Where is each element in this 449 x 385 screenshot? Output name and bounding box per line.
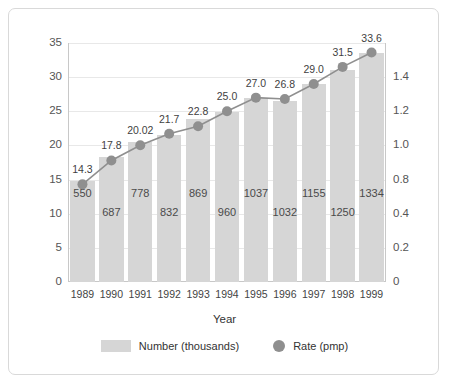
left-tick-label: 25 (36, 104, 62, 116)
line-marker (222, 106, 232, 116)
line-value-label: 33.6 (350, 32, 394, 44)
line-marker (77, 179, 87, 189)
line-marker (338, 62, 348, 72)
left-tick-label: 35 (36, 36, 62, 48)
line-marker (367, 48, 377, 58)
line-marker (251, 93, 261, 103)
chart-figure: 05101520253035 00.20.40.81.01.21.4 19891… (0, 0, 449, 385)
right-tick-label: 0.4 (393, 207, 423, 219)
left-tick-label: 20 (36, 138, 62, 150)
left-tick-label: 30 (36, 70, 62, 82)
left-tick-label: 15 (36, 173, 62, 185)
left-tick-label: 0 (36, 275, 62, 287)
plot-area: 55068777883286996010371032115512501334 1… (68, 43, 386, 282)
line-value-label: 25.0 (205, 90, 249, 102)
right-tick-label: 0.2 (393, 241, 423, 253)
line-marker (193, 121, 203, 131)
chart-legend: Number (thousands) Rate (pmp) (0, 340, 449, 352)
line-value-label: 26.8 (263, 78, 307, 90)
x-tick-label: 1999 (352, 288, 392, 300)
right-tick-label: 0.8 (393, 173, 423, 185)
line-marker (164, 129, 174, 139)
x-axis-title: Year (0, 313, 449, 325)
legend-item-number: Number (thousands) (101, 340, 239, 352)
bar-swatch-icon (101, 340, 131, 352)
line-marker (135, 140, 145, 150)
circle-marker-icon (273, 340, 285, 352)
line-value-label: 14.3 (60, 163, 104, 175)
line-value-label: 17.8 (89, 139, 133, 151)
right-tick-label: 1.2 (393, 104, 423, 116)
line-marker (280, 94, 290, 104)
line-value-label: 29.0 (292, 63, 336, 75)
right-tick-label: 1.0 (393, 138, 423, 150)
legend-label-number: Number (thousands) (139, 340, 239, 352)
legend-item-rate: Rate (pmp) (273, 340, 348, 352)
line-series (68, 43, 386, 282)
right-tick-label: 1.4 (393, 70, 423, 82)
line-value-label: 20.02 (118, 124, 162, 136)
line-marker (106, 155, 116, 165)
line-value-label: 31.5 (321, 46, 365, 58)
line-marker (309, 79, 319, 89)
legend-label-rate: Rate (pmp) (293, 340, 348, 352)
line-value-label: 22.8 (176, 105, 220, 117)
left-tick-label: 5 (36, 241, 62, 253)
left-tick-label: 10 (36, 207, 62, 219)
right-tick-label: 0 (393, 275, 423, 287)
